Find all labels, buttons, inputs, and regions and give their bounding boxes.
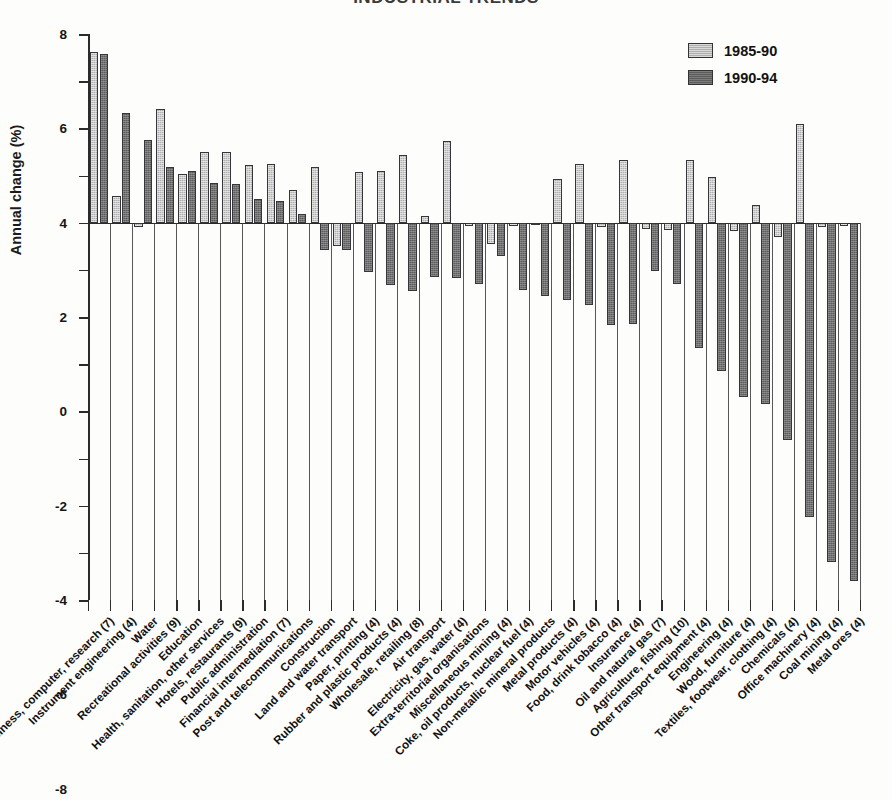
x-axis-label: Food, drink tobacco (4) <box>524 614 624 714</box>
bar-1985-90-28 <box>708 177 716 223</box>
bar-1985-90-8 <box>267 164 275 223</box>
bar-1985-90-11 <box>333 223 341 247</box>
bar-1990-94-1 <box>122 113 130 223</box>
bar-1985-90-3 <box>156 109 164 222</box>
y-tick: -14 <box>79 553 88 555</box>
bar-1990-94-21 <box>563 223 571 301</box>
bar-1985-90-31 <box>774 223 782 237</box>
x-tick <box>750 600 751 611</box>
category-separator <box>331 223 332 600</box>
category-separator <box>816 223 817 600</box>
category-separator <box>728 223 729 600</box>
y-tick: -4 <box>79 317 88 319</box>
y-tick-label: 8 <box>59 27 67 42</box>
category-separator <box>110 223 111 600</box>
x-axis-label: Agriculture, fishing (10) <box>588 614 689 715</box>
x-tick <box>287 600 288 611</box>
bar-1985-90-16 <box>443 141 451 222</box>
bar-1990-94-2 <box>144 140 152 223</box>
x-axis-label: Metal ores (4) <box>804 614 866 676</box>
bar-1990-94-29 <box>739 223 747 398</box>
y-tick: -12 <box>79 506 88 508</box>
x-axis-label: Hotels, restaurants (9) <box>153 614 249 710</box>
x-tick <box>176 600 177 611</box>
bar-1990-94-13 <box>386 223 394 286</box>
x-tick <box>419 600 420 611</box>
y-tick-label: -6 <box>55 687 67 702</box>
x-axis-label: Coke, oil products, nuclear fuel (4) <box>392 614 536 758</box>
x-axis-label: Coal mining (4) <box>776 614 844 682</box>
bar-1990-94-34 <box>850 223 858 581</box>
bar-1985-90-24 <box>619 160 627 223</box>
x-tick <box>397 600 398 611</box>
y-tick-label: 0 <box>59 404 67 419</box>
x-axis-label: Paper, printing (4) <box>302 614 381 693</box>
bar-1990-94-4 <box>188 171 196 223</box>
x-axis-label: Metal products (4) <box>500 614 580 694</box>
bar-1990-94-15 <box>430 223 438 277</box>
x-axis-label: Extra-territorial organisations <box>367 614 491 738</box>
category-separator <box>353 223 354 600</box>
bar-1990-94-28 <box>717 223 725 372</box>
bar-1985-90-21 <box>553 179 561 223</box>
bar-1985-90-17 <box>465 223 473 227</box>
bar-1990-94-23 <box>607 223 615 326</box>
category-separator <box>684 223 685 600</box>
bar-1985-90-6 <box>222 152 230 223</box>
x-axis-label: Rubber and plastic products (4) <box>270 614 403 747</box>
bar-1985-90-22 <box>575 164 583 223</box>
bar-1985-90-5 <box>200 152 208 223</box>
legend-swatch-1985-90 <box>688 43 713 58</box>
x-tick <box>794 600 795 611</box>
x-axis-label: Wood, furniture (4) <box>673 614 755 696</box>
x-axis-label: Miscellaneous mining (4) <box>407 614 514 721</box>
category-separator <box>419 223 420 600</box>
y-tick: -10 <box>79 459 88 461</box>
x-axis-label: Health, sanitation, other services <box>89 614 227 752</box>
bar-1990-94-6 <box>232 184 240 223</box>
bar-1985-90-10 <box>311 167 319 222</box>
legend-label: 1990-94 <box>724 70 777 86</box>
x-axis-label: Engineering (4) <box>665 614 734 683</box>
y-tick: -16 <box>79 600 88 602</box>
bar-1990-94-19 <box>519 223 527 290</box>
x-axis-label: Insurance (4) <box>585 614 645 674</box>
x-tick <box>816 600 817 611</box>
bar-1985-90-19 <box>509 223 517 227</box>
x-tick <box>220 600 221 611</box>
bar-1985-90-20 <box>531 223 539 225</box>
industrial-trends-chart: INDUSTRIAL TRENDS Annual change (%) 8642… <box>0 0 892 800</box>
bar-1985-90-33 <box>818 223 826 228</box>
chart-title: INDUSTRIAL TRENDS <box>0 0 892 10</box>
x-axis-label: Electricity, gas, water (4) <box>364 614 469 719</box>
x-axis-label: Recreational activities (9) <box>74 614 182 722</box>
x-tick <box>154 600 155 611</box>
category-separator <box>397 223 398 600</box>
category-separator <box>639 223 640 600</box>
legend-label: 1985-90 <box>724 43 777 59</box>
x-axis-label: Oil and natural gas (7) <box>572 614 667 709</box>
category-separator <box>661 223 662 600</box>
y-tick: 2 <box>79 176 88 178</box>
bar-1990-94-12 <box>364 223 372 273</box>
legend: 1985-90 1990-94 <box>688 40 777 94</box>
bar-1990-94-11 <box>342 223 350 250</box>
bar-1990-94-8 <box>276 201 284 222</box>
bar-1990-94-10 <box>320 223 328 250</box>
x-tick <box>507 600 508 611</box>
bar-1985-90-29 <box>730 223 738 231</box>
category-separator <box>441 223 442 600</box>
x-tick <box>838 600 839 611</box>
y-tick-label: -2 <box>55 498 67 513</box>
bar-1990-94-0 <box>100 54 108 223</box>
bar-1985-90-25 <box>642 223 650 229</box>
bar-1985-90-18 <box>487 223 495 244</box>
x-axis-label: Textiles, footwear, clothing (4) <box>652 614 778 740</box>
x-tick <box>573 600 574 611</box>
x-tick <box>551 600 552 611</box>
bar-1985-90-9 <box>289 190 297 223</box>
x-tick <box>463 600 464 611</box>
legend-swatch-1990-94 <box>688 70 713 85</box>
x-axis-label: Financial intermediation (7) <box>177 614 293 730</box>
bar-1985-90-14 <box>399 155 407 222</box>
